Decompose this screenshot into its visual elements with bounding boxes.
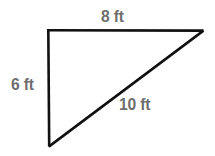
dimension-label-hypotenuse: 10 ft xyxy=(119,95,150,114)
dimension-label-left: 6 ft xyxy=(11,75,34,94)
dimension-label-top: 8 ft xyxy=(101,7,124,26)
triangle-left-edge xyxy=(48,29,49,147)
triangle-figure: 8 ft 6 ft 10 ft xyxy=(0,0,215,156)
